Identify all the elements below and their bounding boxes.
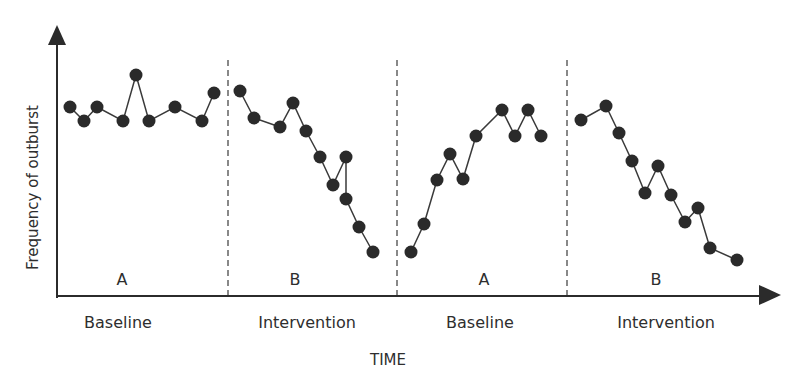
data-point bbox=[340, 193, 353, 206]
phase-letter-b-2: B bbox=[651, 270, 662, 289]
data-point bbox=[300, 125, 313, 138]
data-point bbox=[444, 148, 457, 161]
data-point bbox=[731, 254, 744, 267]
phase-letter-a-2: A bbox=[479, 270, 490, 289]
data-point bbox=[234, 85, 247, 98]
phase-name-baseline-2: Baseline bbox=[446, 313, 514, 332]
series-line bbox=[70, 75, 214, 121]
x-axis-arrow-icon bbox=[759, 285, 781, 305]
data-point bbox=[143, 115, 156, 128]
data-point bbox=[692, 202, 705, 215]
data-point bbox=[248, 112, 261, 125]
data-point bbox=[600, 100, 613, 113]
series-line bbox=[581, 106, 737, 260]
data-point bbox=[457, 173, 470, 186]
data-point bbox=[509, 130, 522, 143]
data-point bbox=[431, 174, 444, 187]
data-point bbox=[704, 242, 717, 255]
data-point bbox=[208, 87, 221, 100]
data-point bbox=[613, 127, 626, 140]
phase-name-intervention-1: Intervention bbox=[258, 313, 356, 332]
data-point bbox=[169, 101, 182, 114]
series-phase-4 bbox=[575, 100, 744, 267]
data-point bbox=[679, 216, 692, 229]
phase-letter-a-1: A bbox=[117, 270, 128, 289]
data-point bbox=[652, 160, 665, 173]
data-point bbox=[522, 104, 535, 117]
y-axis-label: Frequency of outburst bbox=[24, 105, 42, 270]
y-axis-arrow-icon bbox=[48, 25, 66, 45]
data-point bbox=[274, 121, 287, 134]
series-phase-3 bbox=[405, 104, 548, 259]
data-point bbox=[287, 97, 300, 110]
phase-dividers bbox=[228, 60, 567, 295]
data-point bbox=[314, 151, 327, 164]
series-phase-1 bbox=[64, 69, 221, 128]
data-point bbox=[340, 151, 353, 164]
data-series bbox=[64, 69, 744, 267]
phase-name-intervention-2: Intervention bbox=[617, 313, 715, 332]
data-point bbox=[196, 115, 209, 128]
data-point bbox=[367, 246, 380, 259]
data-point bbox=[353, 221, 366, 234]
data-point bbox=[405, 246, 418, 259]
data-point bbox=[575, 114, 588, 127]
series-phase-2 bbox=[234, 85, 380, 259]
data-point bbox=[130, 69, 143, 82]
data-point bbox=[639, 187, 652, 200]
data-point bbox=[418, 218, 431, 231]
data-point bbox=[496, 104, 509, 117]
data-point bbox=[78, 115, 91, 128]
data-point bbox=[626, 155, 639, 168]
data-point bbox=[117, 115, 130, 128]
data-point bbox=[91, 101, 104, 114]
data-point bbox=[665, 189, 678, 202]
phase-name-baseline-1: Baseline bbox=[84, 313, 152, 332]
data-point bbox=[327, 179, 340, 192]
data-point bbox=[64, 101, 77, 114]
phase-letter-b-1: B bbox=[290, 270, 301, 289]
x-axis-label: TIME bbox=[370, 351, 406, 369]
data-point bbox=[470, 130, 483, 143]
data-point bbox=[535, 130, 548, 143]
